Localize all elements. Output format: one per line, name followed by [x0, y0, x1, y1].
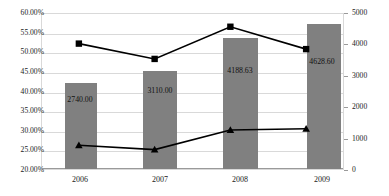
gridline-50: [42, 53, 343, 54]
bar-2008: [223, 38, 258, 170]
gridline-45: [42, 73, 343, 74]
plot-area: [41, 13, 344, 170]
y-axis-right-tick: 1000: [352, 135, 386, 143]
y-axis-left-tick: 45.00%: [0, 68, 44, 76]
x-axis-label-2007: 2007: [130, 175, 190, 184]
x-axis-label-2009: 2009: [292, 175, 352, 184]
y-axis-left-tick: 25.00%: [0, 146, 44, 154]
y-axis-right-tick: 2000: [352, 103, 386, 111]
y-axis-left-tick: 55.00%: [0, 29, 44, 37]
bar-2009: [307, 24, 341, 169]
y-axis-right-tick: 3000: [352, 72, 386, 80]
y-axis-left-tick: 40.00%: [0, 88, 44, 96]
y-axis-left-tick: 20.00%: [0, 166, 44, 174]
y-axis-right-tick: 0: [352, 166, 386, 174]
bar-value-label: 4628.60: [292, 57, 352, 66]
bar-value-label: 3110.00: [130, 86, 190, 95]
bar-value-label: 2740.00: [50, 95, 110, 104]
y-axis-left-tick: 30.00%: [0, 127, 44, 135]
y-axis-left-tick: 50.00%: [0, 48, 44, 56]
x-axis-label-2006: 2006: [50, 175, 110, 184]
y-axis-left-tick: 35.00%: [0, 107, 44, 115]
y-axis-right-tick: 5000: [352, 9, 386, 17]
bar-value-label: 4188.63: [210, 66, 270, 75]
chart-container: 60.00% 55.00% 50.00% 45.00% 40.00% 35.00…: [0, 0, 389, 196]
y-axis-left-tick: 60.00%: [0, 9, 44, 17]
x-axis-label-2008: 2008: [210, 175, 270, 184]
y-axis-right-tick: 4000: [352, 40, 386, 48]
gridline-55: [42, 34, 343, 35]
